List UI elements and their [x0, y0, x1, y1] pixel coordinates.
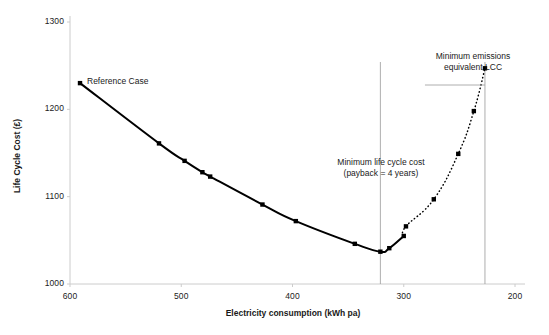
data-point-marker	[378, 249, 382, 253]
annotation-min-emissions-line1: Minimum emissions	[398, 51, 548, 62]
x-axis-tick-label: 200	[495, 291, 535, 301]
annotation-minimum-emissions-equivalent-lcc: Minimum emissions equivalent LCC	[398, 51, 548, 73]
annotation-minimum-life-cycle-cost: Minimum life cycle cost (payback = 4 yea…	[306, 157, 456, 179]
data-point-marker	[472, 109, 476, 113]
data-point-marker	[353, 242, 357, 246]
annotation-reference-case: Reference Case	[87, 76, 148, 87]
data-point-marker	[260, 202, 264, 206]
x-axis-tick-label: 300	[384, 291, 424, 301]
data-point-marker	[182, 159, 186, 163]
data-point-marker	[456, 152, 460, 156]
series-line-1	[402, 68, 484, 236]
data-point-marker	[208, 174, 212, 178]
y-axis-title: Life Cycle Cost (£)	[12, 106, 22, 206]
data-point-marker	[294, 219, 298, 223]
y-axis-tick-label: 1300	[30, 16, 64, 26]
x-axis-tick-label: 500	[161, 291, 201, 301]
data-point-marker	[404, 224, 408, 228]
data-point-marker	[432, 197, 436, 201]
data-point-marker	[157, 141, 161, 145]
x-axis-tick-label: 400	[273, 291, 313, 301]
y-axis-tick-label: 1200	[30, 103, 64, 113]
life-cycle-cost-chart: 1300120011001000 600500400300200 Life Cy…	[0, 0, 549, 335]
data-point-marker	[78, 81, 82, 85]
annotation-min-emissions-line2: equivalent LCC	[398, 62, 548, 73]
annotation-min-lcc-line1: Minimum life cycle cost	[306, 157, 456, 168]
annotation-min-lcc-line2: (payback = 4 years)	[306, 168, 456, 179]
y-axis-tick-label: 1000	[30, 278, 64, 288]
x-axis-tick-label: 600	[50, 291, 90, 301]
x-axis-title: Electricity consumption (kWh pa)	[70, 308, 516, 318]
data-point-marker	[387, 246, 391, 250]
data-point-marker	[200, 170, 204, 174]
y-axis-tick-label: 1100	[30, 191, 64, 201]
